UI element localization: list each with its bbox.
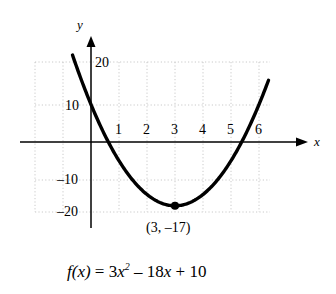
equation-arg: (x) [72,262,91,281]
quadratic-function-graph [0,0,336,294]
equation-term1-exponent: 2 [125,261,130,272]
x-tick-label-1: 1 [115,123,122,137]
y-tick-label-neg10: –10 [57,173,78,187]
grid-lines [35,62,270,212]
equation-term3: + 10 [176,262,207,281]
y-tick-label-neg20: –20 [57,205,78,219]
equation-term2-var: x [164,262,172,281]
y-tick-label-20: 20 [95,56,109,70]
x-tick-label-3: 3 [171,123,178,137]
vertex-annotation-label: (3, –17) [146,221,190,235]
equation-term2: – 18 [134,262,164,281]
function-equation: f(x) = 3x2 – 18x + 10 [67,261,206,282]
x-axis [20,138,308,147]
x-tick-label-4: 4 [199,123,206,137]
x-tick-label-6: 6 [255,123,262,137]
equation-equals: = [95,262,105,281]
equation-term1-coef: 3 [109,262,118,281]
equation-term1-var: x [117,262,125,281]
x-tick-label-2: 2 [143,123,150,137]
x-tick-label-5: 5 [227,123,234,137]
x-axis-label: x [314,135,320,148]
y-tick-label-10: 10 [65,99,79,113]
y-axis-label: y [77,18,83,31]
vertex-point-marker [171,202,179,210]
